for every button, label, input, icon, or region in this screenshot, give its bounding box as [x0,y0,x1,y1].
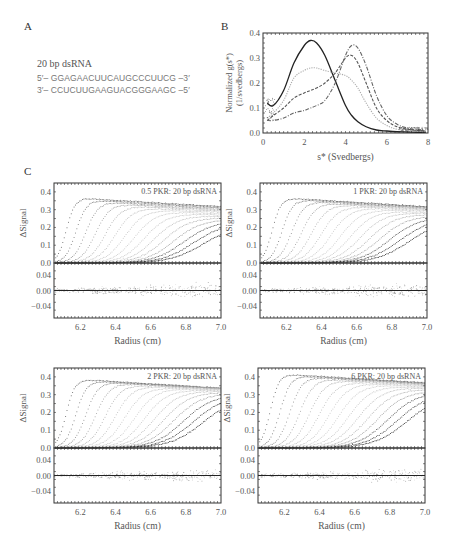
svg-text:Radius (cm): Radius (cm) [320,336,367,347]
svg-text:6.2: 6.2 [75,322,86,332]
svg-text:ΔSignal: ΔSignal [18,393,28,422]
svg-text:6.6: 6.6 [351,322,362,332]
svg-text:6.8: 6.8 [387,322,398,332]
svg-text:0: 0 [261,137,265,147]
svg-text:6.8: 6.8 [385,507,396,517]
svg-text:6.2: 6.2 [279,507,290,517]
svg-text:6.8: 6.8 [181,507,192,517]
svg-text:s* (Svedbergs): s* (Svedbergs) [317,152,374,163]
svg-text:−0.04: −0.04 [31,301,51,311]
svg-text:Normalized g(s*)(1/svedbergs): Normalized g(s*)(1/svedbergs) [225,53,244,113]
svg-text:Radius (cm): Radius (cm) [114,336,161,347]
svg-text:ΔSignal: ΔSignal [222,393,232,422]
svg-text:0.3: 0.3 [249,53,260,63]
svg-text:6.4: 6.4 [110,322,121,332]
svg-text:0.1: 0.1 [40,240,51,250]
svg-text:0.2: 0.2 [244,407,255,417]
chart-c-2pkr: 0.00.10.20.30.40.040.00−0.046.26.46.66.8… [10,363,230,533]
svg-text:0.00: 0.00 [242,286,257,296]
svg-text:1 PKR: 20 bp dsRNA: 1 PKR: 20 bp dsRNA [353,187,423,196]
svg-text:2: 2 [302,137,306,147]
svg-text:0.0: 0.0 [40,443,51,453]
svg-text:0.04: 0.04 [36,270,52,280]
svg-text:ΔSignal: ΔSignal [224,208,234,237]
svg-text:0.0: 0.0 [40,258,51,268]
panel-a-label: A [24,20,32,32]
svg-text:2 PKR: 20 bp dsRNA: 2 PKR: 20 bp dsRNA [147,372,217,381]
svg-text:6.6: 6.6 [145,507,156,517]
svg-text:0.04: 0.04 [36,455,52,465]
svg-text:0.5 PKR: 20 bp dsRNA: 0.5 PKR: 20 bp dsRNA [141,187,217,196]
dsrna-bottom-strand: 3′– CCUCUUGAAGUACGGGAAGC –5′ [37,85,190,95]
svg-text:−0.04: −0.04 [31,486,51,496]
svg-text:7.0: 7.0 [422,322,433,332]
svg-text:6.4: 6.4 [314,507,325,517]
svg-text:6.4: 6.4 [316,322,327,332]
svg-text:0.2: 0.2 [246,222,257,232]
svg-text:0.1: 0.1 [244,425,255,435]
svg-text:6.2: 6.2 [75,507,86,517]
svg-text:0.4: 0.4 [40,187,51,197]
chart-c-0.5pkr: 0.00.10.20.30.40.040.00−0.046.26.46.66.8… [10,178,230,348]
svg-text:7.0: 7.0 [420,507,431,517]
svg-text:0.00: 0.00 [36,471,51,481]
svg-text:0.2: 0.2 [249,78,260,88]
svg-text:6 PKR: 20 bp dsRNA: 6 PKR: 20 bp dsRNA [351,372,421,381]
chart-b-sedimentation-distribution: 0.00.10.20.30.402468s* (Svedbergs)Normal… [225,25,445,170]
svg-text:0.0: 0.0 [244,443,255,453]
svg-text:4: 4 [343,137,348,147]
svg-text:0.2: 0.2 [40,222,51,232]
svg-text:0.3: 0.3 [244,390,255,400]
svg-text:8: 8 [426,137,430,147]
svg-text:0.0: 0.0 [246,258,257,268]
svg-text:0.3: 0.3 [40,205,51,215]
svg-text:0.3: 0.3 [40,390,51,400]
svg-text:6.6: 6.6 [145,322,156,332]
svg-text:0.1: 0.1 [249,103,260,113]
svg-text:6.8: 6.8 [181,322,192,332]
svg-text:0.4: 0.4 [249,28,260,38]
svg-text:0.1: 0.1 [40,425,51,435]
svg-text:Radius (cm): Radius (cm) [114,521,161,532]
svg-text:6.4: 6.4 [110,507,121,517]
svg-text:Radius (cm): Radius (cm) [318,521,365,532]
svg-text:0.1: 0.1 [246,240,257,250]
svg-text:0.2: 0.2 [40,407,51,417]
svg-text:ΔSignal: ΔSignal [18,208,28,237]
svg-text:0.4: 0.4 [246,187,257,197]
chart-c-1pkr: 0.00.10.20.30.40.040.00−0.046.26.46.66.8… [220,178,450,348]
svg-text:0.3: 0.3 [246,205,257,215]
dsrna-top-strand: 5′– GGAGAACUUCAUGCCCUUCG –3′ [37,73,190,83]
chart-c-6pkr: 0.00.10.20.30.40.040.00−0.046.26.46.66.8… [220,363,450,533]
svg-text:0.4: 0.4 [244,372,255,382]
svg-text:0.4: 0.4 [40,372,51,382]
svg-text:0.04: 0.04 [242,270,258,280]
svg-text:−0.04: −0.04 [237,301,257,311]
svg-text:6.2: 6.2 [281,322,292,332]
svg-text:0.00: 0.00 [36,286,51,296]
svg-text:−0.04: −0.04 [235,486,255,496]
svg-text:6.6: 6.6 [349,507,360,517]
panel-c-label: C [24,165,31,177]
svg-text:6: 6 [385,137,389,147]
svg-text:0.04: 0.04 [240,455,256,465]
svg-text:0.0: 0.0 [249,128,260,138]
svg-text:0.00: 0.00 [240,471,255,481]
dsrna-title: 20 bp dsRNA [37,58,92,69]
